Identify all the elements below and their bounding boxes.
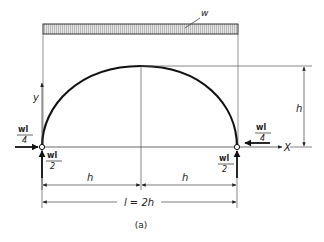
right-v-reaction-num: wl bbox=[219, 154, 229, 163]
left-v-reaction-num: wl bbox=[47, 151, 57, 160]
right-h-reaction-den: 4 bbox=[260, 134, 265, 143]
right-v-reaction-den: 2 bbox=[222, 165, 227, 174]
x-axis-label: X bbox=[283, 142, 292, 153]
rise-label: h bbox=[296, 103, 302, 114]
arch-curve bbox=[42, 66, 237, 147]
right-h-reaction-num: wl bbox=[256, 123, 266, 132]
right-pin-support bbox=[234, 144, 239, 149]
left-h-reaction-num: wl bbox=[18, 125, 28, 134]
left-pin-support bbox=[39, 144, 44, 149]
span-label: l = 2h bbox=[124, 197, 154, 208]
right-half-span-label: h bbox=[182, 172, 188, 183]
arch-diagram: w X y h wl 4 wl 2 wl 4 wl 2 h h l = 2h (… bbox=[0, 0, 324, 242]
left-half-span-label: h bbox=[87, 172, 93, 183]
figure-caption: (a) bbox=[135, 220, 148, 230]
load-label: w bbox=[201, 8, 209, 18]
left-v-reaction-den: 2 bbox=[50, 162, 55, 171]
y-axis-label: y bbox=[32, 92, 40, 103]
left-h-reaction-den: 4 bbox=[22, 136, 27, 145]
distributed-load bbox=[43, 18, 238, 147]
